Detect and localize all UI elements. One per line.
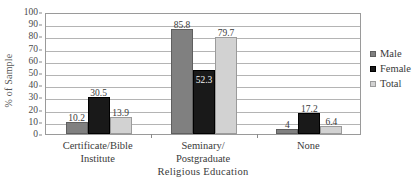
bar-male-0	[66, 122, 88, 134]
y-tick-label: 10	[29, 118, 39, 128]
y-tick-mark	[39, 86, 42, 87]
bar-value-label: 17.2	[301, 104, 318, 114]
bar-male-1	[171, 29, 193, 134]
bar-value-label: 13.9	[112, 108, 129, 118]
y-tick-mark	[39, 135, 42, 136]
bar-female-0	[88, 97, 110, 134]
bar-value-label: 6.4	[325, 117, 337, 127]
y-tick-label: 40	[29, 81, 39, 91]
y-tick-label: 30	[29, 94, 39, 104]
x-category-label: Seminary/Postgraduate	[176, 139, 230, 165]
x-axis-category-labels: Certificate/BibleInstituteSeminary/Postg…	[45, 139, 361, 169]
legend-swatch-icon	[370, 81, 376, 87]
bar-value-label: 10.2	[68, 113, 85, 123]
y-tick-mark	[39, 25, 42, 26]
legend-label: Total	[380, 78, 401, 89]
legend-item-male[interactable]: Male	[370, 46, 415, 61]
x-axis-tick	[257, 134, 258, 138]
legend: MaleFemaleTotal	[370, 46, 415, 91]
y-tick-mark	[39, 98, 42, 99]
y-tick-mark	[39, 49, 42, 50]
legend-swatch-icon	[370, 51, 376, 57]
bar-female-2	[298, 113, 320, 134]
bar-value-label: 30.5	[90, 88, 107, 98]
bar-value-label: 52.3	[195, 75, 214, 85]
bar-total-1	[215, 37, 237, 134]
y-axis-title-text: % of Sample	[4, 53, 15, 107]
y-tick-label: 50	[29, 69, 39, 79]
legend-label: Female	[380, 63, 411, 74]
y-axis-tick-labels: 0102030405060708090100	[16, 10, 42, 136]
x-axis-tick	[151, 134, 152, 138]
bar-value-label: 85.8	[174, 20, 191, 30]
y-tick-mark	[39, 13, 42, 14]
y-tick-label: 70	[29, 45, 39, 55]
bars-layer: 10.230.513.985.852.379.7417.26.4	[46, 14, 360, 134]
plot-area: 10.230.513.985.852.379.7417.26.4	[45, 13, 361, 135]
x-category-line1: Certificate/Bible	[63, 140, 133, 151]
legend-item-female[interactable]: Female	[370, 61, 415, 76]
y-tick-label: 0	[33, 130, 38, 140]
bar-total-0	[110, 117, 132, 134]
bar-total-2	[320, 126, 342, 134]
x-category-label: Certificate/BibleInstitute	[63, 139, 133, 165]
bar-value-label: 4	[285, 120, 290, 130]
y-tick-mark	[39, 61, 42, 62]
legend-label: Male	[380, 48, 402, 59]
y-tick-mark	[39, 110, 42, 111]
y-tick-mark	[39, 74, 42, 75]
y-tick-mark	[39, 37, 42, 38]
legend-item-total[interactable]: Total	[370, 76, 415, 91]
y-tick-label: 100	[24, 8, 38, 18]
x-category-label: None	[297, 139, 320, 152]
y-tick-label: 20	[29, 106, 39, 116]
y-tick-label: 80	[29, 33, 39, 43]
x-category-line2: Institute	[63, 152, 133, 165]
x-category-line2: Postgraduate	[176, 152, 230, 165]
x-axis-title: Religious Education	[45, 166, 361, 177]
x-category-line1: Seminary/	[181, 140, 224, 151]
y-tick-mark	[39, 122, 42, 123]
bar-value-label: 79.7	[218, 28, 235, 38]
x-category-line1: None	[297, 140, 320, 151]
y-tick-label: 60	[29, 57, 39, 67]
bar-chart: % of Sample 0102030405060708090100 10.23…	[0, 0, 415, 188]
y-tick-label: 90	[29, 20, 39, 30]
legend-swatch-icon	[370, 66, 376, 72]
